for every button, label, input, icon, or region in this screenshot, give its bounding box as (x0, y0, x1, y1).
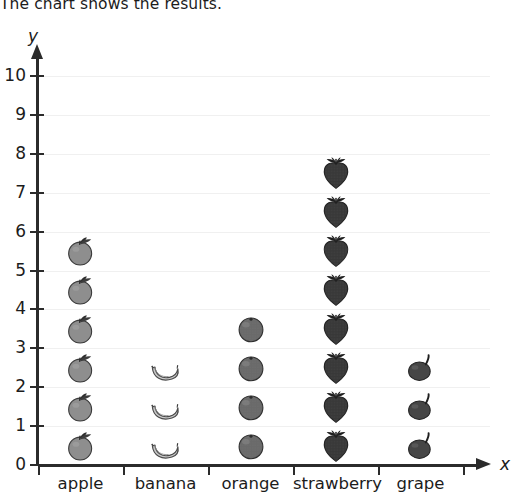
y-axis-tick-label: 5 (2, 262, 26, 279)
orange-icon (227, 387, 275, 426)
pictograph-column-grape (378, 0, 463, 465)
strawberry-icon (312, 309, 360, 348)
apple-icon (57, 387, 105, 426)
x-axis-arrow-icon (476, 458, 491, 470)
strawberry-icon (312, 271, 360, 310)
apple-icon (57, 232, 105, 271)
pictograph-chart: The chart shows the results. y x 0123456… (0, 0, 520, 495)
banana-icon (142, 426, 190, 465)
strawberry-icon (312, 232, 360, 271)
pictograph-column-banana (123, 0, 208, 465)
y-axis-tick-label: 9 (2, 106, 26, 123)
strawberry-icon (312, 387, 360, 426)
pictograph-column-strawberry (293, 0, 378, 465)
banana-icon (142, 387, 190, 426)
pictograph-column-orange (208, 0, 293, 465)
y-axis-tick-label: 6 (2, 223, 26, 240)
x-axis-category-label-orange: orange (208, 474, 293, 493)
strawberry-icon (312, 426, 360, 465)
x-axis-category-label-banana: banana (123, 474, 208, 493)
y-axis-tick-label: 10 (2, 67, 26, 84)
y-axis-tick-label: 2 (2, 378, 26, 395)
apple-icon (57, 271, 105, 310)
strawberry-icon (312, 154, 360, 193)
orange-icon (227, 426, 275, 465)
y-axis-tick-label: 7 (2, 184, 26, 201)
banana-icon (142, 348, 190, 387)
y-axis-tick-label: 4 (2, 300, 26, 317)
y-axis-tick-label: 1 (2, 417, 26, 434)
y-axis-tick-label: 0 (2, 456, 26, 473)
pictograph-column-apple (38, 0, 123, 465)
orange-icon (227, 348, 275, 387)
apple-icon (57, 426, 105, 465)
grape-icon (397, 387, 445, 426)
x-axis-category-label-strawberry: strawberry (293, 474, 378, 493)
x-axis-tick (463, 464, 465, 475)
y-axis-label: y (28, 26, 38, 46)
x-axis-category-label-apple: apple (38, 474, 123, 493)
apple-icon (57, 309, 105, 348)
strawberry-icon (312, 348, 360, 387)
x-axis-category-label-grape: grape (378, 474, 463, 493)
grape-icon (397, 348, 445, 387)
y-axis-tick-label: 3 (2, 339, 26, 356)
orange-icon (227, 309, 275, 348)
grape-icon (397, 426, 445, 465)
x-axis-label: x (500, 454, 510, 474)
apple-icon (57, 348, 105, 387)
strawberry-icon (312, 193, 360, 232)
y-axis-tick-label: 8 (2, 145, 26, 162)
